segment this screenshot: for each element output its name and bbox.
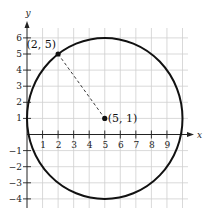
x-tick-label: 5 <box>102 140 108 150</box>
y-axis-label: y <box>24 8 31 18</box>
point-label: (2, 5) <box>27 38 57 51</box>
y-tick-label: −2 <box>9 162 22 172</box>
x-tick-label: 4 <box>87 140 93 150</box>
data-point <box>102 116 107 121</box>
y-tick-label: −4 <box>9 194 23 204</box>
y-tick-label: −3 <box>9 178 23 188</box>
x-tick-label: 6 <box>118 140 124 150</box>
x-tick-label: 1 <box>40 140 46 150</box>
y-tick-label: 5 <box>16 49 22 59</box>
y-tick-label: −1 <box>9 146 22 156</box>
x-tick-label: 2 <box>56 140 62 150</box>
y-tick-label: 1 <box>16 113 22 123</box>
data-point <box>56 51 61 56</box>
x-tick-label: 9 <box>165 140 171 150</box>
x-tick-label: 3 <box>71 140 77 150</box>
y-tick-label: 3 <box>16 81 22 91</box>
circle-chart: xy 123456789−4−3−2−1123456 (2, 5)(5, 1) <box>0 0 205 211</box>
x-tick-label: 7 <box>133 140 139 150</box>
y-tick-label: 2 <box>16 97 22 107</box>
x-tick-label: 8 <box>149 140 155 150</box>
y-axis-arrow-icon <box>25 21 30 28</box>
y-tick-label: 6 <box>16 33 22 43</box>
point-label: (5, 1) <box>108 112 138 125</box>
y-tick-label: 4 <box>16 65 22 75</box>
x-axis-label: x <box>197 130 202 140</box>
x-axis-arrow-icon <box>187 132 194 137</box>
points: (2, 5)(5, 1) <box>27 38 138 125</box>
